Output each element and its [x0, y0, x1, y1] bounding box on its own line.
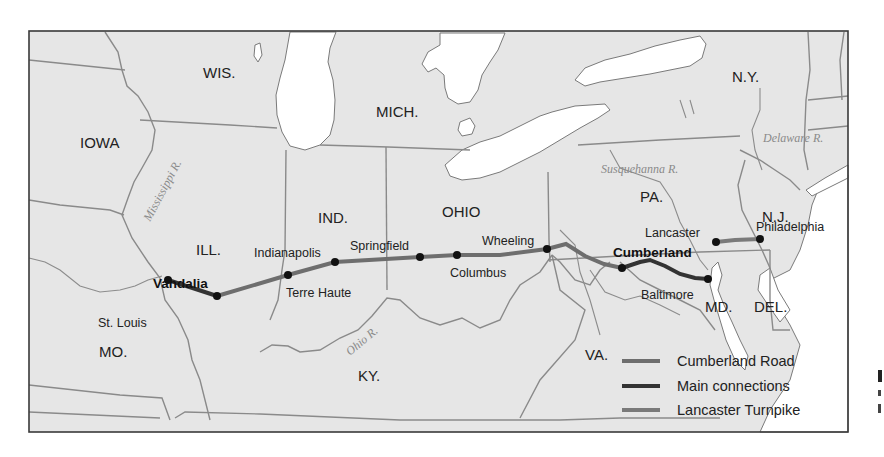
river-label-susquehanna: Susquehanna R.	[601, 162, 678, 176]
river-label-delaware: Delaware R.	[762, 131, 823, 145]
state-label-iowa: IOWA	[80, 134, 119, 151]
legend-label-cumberland-road: Cumberland Road	[677, 353, 795, 369]
city-label-st-louis: St. Louis	[98, 316, 147, 330]
dot-springfield	[416, 253, 424, 261]
dot-cumberland	[618, 264, 626, 272]
state-label-wis: WIS.	[203, 64, 236, 81]
state-label-md: MD.	[705, 298, 733, 315]
dot-indianapolis	[331, 258, 339, 266]
state-label-ky: KY.	[358, 367, 380, 384]
state-label-pa: PA.	[640, 188, 663, 205]
land-area	[29, 31, 848, 432]
dot-columbus	[453, 251, 461, 259]
city-label-springfield: Springfield	[350, 239, 409, 253]
cutoff-caption-fragments	[878, 370, 882, 413]
state-label-ohio: OHIO	[442, 203, 480, 220]
state-label-ny: N.Y.	[732, 68, 759, 85]
dot-terre-haute	[284, 271, 292, 279]
state-label-ind: IND.	[318, 209, 348, 226]
legend-label-main-connections: Main connections	[677, 378, 790, 394]
city-label-columbus: Columbus	[450, 266, 506, 280]
legend-label-lancaster-turnpike: Lancaster Turnpike	[677, 402, 800, 418]
city-label-vandalia: Vandalia	[153, 276, 208, 291]
map-legend: Cumberland Road Main connections Lancast…	[622, 353, 800, 418]
city-label-indianapolis: Indianapolis	[254, 246, 321, 260]
state-label-mo: MO.	[99, 343, 127, 360]
dot-wheeling	[543, 245, 551, 253]
city-label-philadelphia: Philadelphia	[756, 220, 824, 234]
city-label-terre-haute: Terre Haute	[286, 286, 351, 300]
state-label-va: VA.	[585, 346, 608, 363]
dot-lancaster	[712, 238, 720, 246]
city-label-cumberland: Cumberland	[613, 245, 692, 260]
city-label-lancaster: Lancaster	[645, 226, 700, 240]
map: WIS. IOWA MICH. N.Y. ILL. IND. OHIO PA. …	[0, 0, 884, 457]
state-label-mich: MICH.	[376, 103, 419, 120]
dot-vandalia-east	[213, 292, 221, 300]
state-label-ill: ILL.	[196, 241, 221, 258]
state-label-del: DEL.	[754, 298, 787, 315]
city-label-baltimore: Baltimore	[641, 288, 694, 302]
city-label-wheeling: Wheeling	[482, 234, 534, 248]
dot-philadelphia	[756, 235, 764, 243]
dot-baltimore	[704, 275, 712, 283]
